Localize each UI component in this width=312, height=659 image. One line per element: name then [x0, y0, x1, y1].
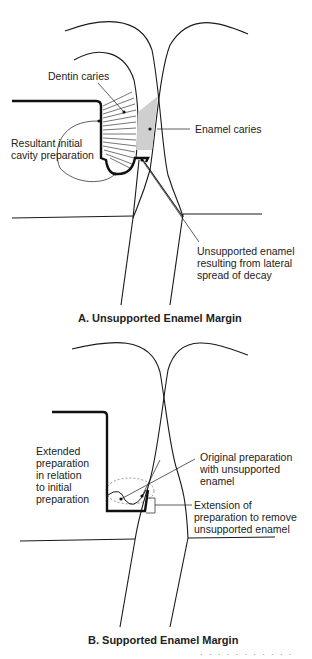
enamel-caries-shade: [136, 96, 158, 150]
dentin-caries-hatching: [103, 92, 136, 168]
label-dentin-caries: Dentin caries: [48, 70, 109, 82]
original-preparation: [108, 490, 146, 504]
tooth-outline-left-b: [72, 343, 188, 538]
caption-b: B. Supported Enamel Margin: [88, 634, 238, 646]
label-original-preparation: Original preparation with unsupported en…: [200, 451, 292, 487]
label-unsupported-enamel: Unsupported enamel resulting from latera…: [197, 245, 294, 281]
caption-a: A. Unsupported Enamel Margin: [78, 312, 242, 324]
tooth-outline-left: [65, 22, 183, 217]
cut-off-text-fragment: · · · · · · · · · · ·: [200, 650, 294, 659]
label-enamel-caries: Enamel caries: [195, 123, 262, 135]
label-extension: Extension of preparation to remove unsup…: [194, 499, 297, 535]
label-extended-preparation: Extended preparation in relation to init…: [36, 445, 89, 505]
diagram-drawing: [0, 0, 312, 659]
label-resultant-preparation: Resultant initial cavity preparation: [11, 137, 94, 161]
